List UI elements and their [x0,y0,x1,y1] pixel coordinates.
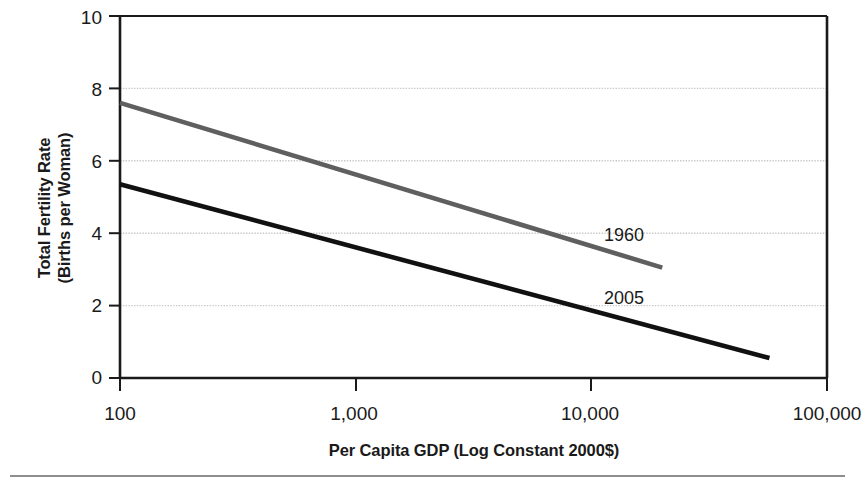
series-annotation-1960: 1960 [604,226,644,244]
series-line-1960 [120,103,662,268]
x-axis-title: Per Capita GDP (Log Constant 2000$) [120,441,828,460]
plot-frame [120,16,827,378]
gridlines [120,88,827,305]
y-axis-ticks [109,16,120,378]
bottom-divider [10,475,845,477]
x-axis-ticks [120,378,827,391]
data-series [120,103,769,358]
series-line-2005 [120,184,769,358]
series-annotation-2005: 2005 [604,289,644,307]
